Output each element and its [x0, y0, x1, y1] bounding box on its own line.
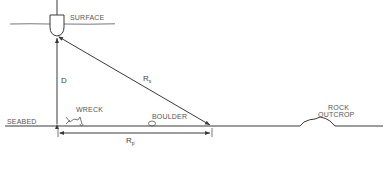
surface-label: SURFACE	[70, 14, 105, 21]
rock-label-line1: ROCK	[328, 104, 349, 111]
wreck-label: WRECK	[76, 106, 103, 113]
depth-label: D	[61, 76, 67, 85]
seabed: SEABED	[5, 117, 383, 126]
wreck-icon	[66, 117, 83, 126]
slant-range-label: Rs	[143, 74, 152, 84]
sonar-geometry-diagram: SURFACE D Rs SEABED WRECK BOULDER ROCK O…	[0, 0, 385, 178]
sonar-towfish	[50, 0, 64, 36]
plan-range-dimension: Rp	[58, 128, 212, 146]
boulder: BOULDER	[149, 113, 188, 126]
rock-label-line2: OUTCROP	[318, 111, 355, 118]
rock-outcrop: ROCK OUTCROP	[318, 104, 355, 118]
boulder-label: BOULDER	[152, 113, 187, 120]
boulder-icon	[149, 121, 156, 126]
plan-range-label: Rp	[126, 136, 135, 146]
depth-dimension: D	[57, 38, 67, 124]
sea-surface: SURFACE	[10, 14, 115, 24]
seabed-label: SEABED	[7, 118, 37, 125]
towfish-icon	[50, 15, 64, 36]
wreck: WRECK	[66, 106, 103, 126]
